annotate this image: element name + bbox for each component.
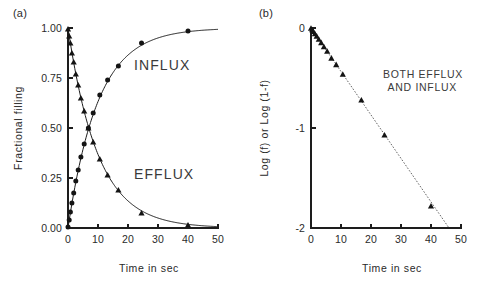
figure-container: (a) 010203040500.000.250.500.751.00Time … [0,0,486,289]
a-marker-circle [68,210,73,215]
a-xtick-label: 10 [92,233,104,245]
a-marker-circle [76,168,81,173]
a-marker-triangle [71,59,77,65]
b-marker-triangle [340,71,346,77]
b-marker-triangle [381,132,387,138]
a-marker-circle [139,41,144,46]
a-marker-triangle [90,139,96,145]
b-marker-triangle [328,55,334,61]
a-marker-circle [91,111,96,116]
b-ytick-label: -2 [295,222,305,234]
panel-a-plot: 010203040500.000.250.500.751.00Time in s… [0,0,243,289]
a-marker-circle [71,191,76,196]
b-ytick-label: 0 [299,22,305,34]
a-marker-triangle [65,26,71,32]
a-marker-circle [73,179,78,184]
b-yaxis-title: Log (f) or Log (1-f) [258,79,270,176]
a-marker-triangle [97,156,103,162]
b-marker-triangle [333,62,339,68]
a-marker-triangle [81,108,87,114]
b-marker-triangle [358,97,364,103]
a-marker-triangle [66,33,72,39]
a-marker-circle [82,142,87,147]
a-marker-circle [116,64,121,69]
b-ytick-label: -1 [295,122,305,134]
a-marker-circle [105,78,110,83]
b-xtick-label: 20 [365,233,377,245]
a-yaxis-title: Fractional filling [12,86,24,170]
a-xtick-label: 30 [152,233,164,245]
b-xtick-label: 50 [455,233,467,245]
b-xtick-label: 0 [308,233,314,245]
a-marker-circle [186,29,191,34]
a-annotation-0: INFLUX [134,57,190,73]
a-xtick-label: 40 [182,233,194,245]
a-ytick-label: 0.75 [41,72,62,84]
panel-a: (a) 010203040500.000.250.500.751.00Time … [0,0,243,289]
b-xaxis-title: Time in sec [362,262,422,274]
a-marker-triangle [75,82,81,88]
b-xtick-label: 30 [395,233,407,245]
panel-b: (b) 010203040500-1-2Time in secLog (f) o… [243,0,486,289]
a-marker-triangle [138,210,144,216]
b-annotation-1: AND INFLUX [388,81,457,93]
a-marker-triangle [73,71,79,77]
a-xtick-label: 20 [122,233,134,245]
b-axis-frame [311,28,462,229]
a-ytick-label: 1.00 [41,22,62,34]
a-ytick-label: 0.00 [41,222,62,234]
a-marker-circle [78,155,83,160]
a-xtick-label: 0 [65,233,71,245]
a-marker-circle [67,218,72,223]
a-marker-triangle [78,95,84,101]
a-ytick-label: 0.50 [41,122,62,134]
panel-b-plot: 010203040500-1-2Time in secLog (f) or Lo… [243,0,486,289]
a-ytick-label: 0.25 [41,172,62,184]
a-marker-circle [97,93,102,98]
a-marker-triangle [69,50,75,56]
a-xtick-label: 50 [212,233,224,245]
b-xtick-label: 40 [425,233,437,245]
a-marker-circle [66,225,71,230]
a-marker-triangle [105,172,111,178]
a-annotation-1: EFFLUX [134,166,194,182]
b-annotation-0: BOTH EFFLUX [383,68,463,80]
b-xtick-label: 10 [335,233,347,245]
a-xaxis-title: Time in sec [119,262,179,274]
a-marker-circle [69,201,74,206]
